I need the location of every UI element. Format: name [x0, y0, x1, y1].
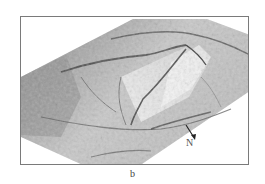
terrain-relief-image — [21, 17, 249, 165]
panel-label: b — [0, 168, 265, 179]
north-label: N — [186, 137, 193, 148]
figure-frame — [20, 16, 249, 165]
